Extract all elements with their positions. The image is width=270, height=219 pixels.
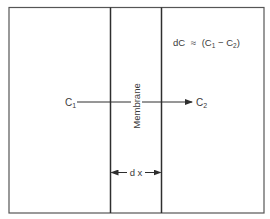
diffusion-diagram: C1 C2 Membrane dC ≈ (C1 − C2) d x: [0, 0, 270, 219]
dx-label: d x: [130, 167, 143, 178]
membrane-label: Membrane: [131, 83, 142, 128]
c1-label: C1: [65, 97, 76, 109]
c2-label: C2: [196, 97, 207, 109]
concentration-gradient-equation: dC ≈ (C1 − C2): [173, 37, 240, 49]
